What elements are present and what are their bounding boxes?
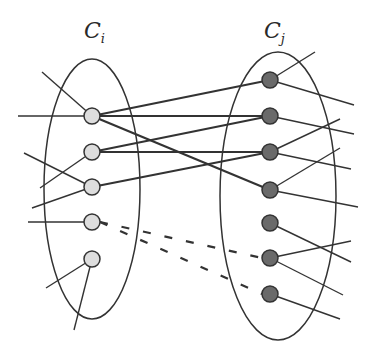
label-cj-base: C <box>264 18 281 43</box>
nodes <box>84 72 278 302</box>
external-edges <box>18 52 358 330</box>
node-ci <box>84 251 100 267</box>
cluster-graph-diagram <box>0 0 375 363</box>
external-edge <box>270 116 354 134</box>
inter-edge-dashed <box>100 222 262 258</box>
node-ci <box>84 179 100 195</box>
inter-edge-solid <box>92 116 270 152</box>
external-edge <box>270 190 358 207</box>
node-cj <box>262 144 278 160</box>
external-edge <box>270 258 343 295</box>
label-ci-base: C <box>84 18 101 43</box>
node-cj <box>262 215 278 231</box>
inter-edge-solid <box>92 152 270 187</box>
external-edge <box>270 294 340 319</box>
cluster-label-ci: Ci <box>84 18 105 46</box>
node-cj <box>262 286 278 302</box>
inter-edge-solid <box>92 80 270 116</box>
node-ci <box>84 108 100 124</box>
node-cj <box>262 108 278 124</box>
node-ci <box>84 214 100 230</box>
node-ci <box>84 144 100 160</box>
label-ci-sub: i <box>101 31 105 46</box>
node-cj <box>262 182 278 198</box>
external-edge <box>32 187 92 208</box>
external-edge <box>270 80 354 105</box>
node-cj <box>262 250 278 266</box>
inter-cluster-edges <box>92 80 270 294</box>
node-cj <box>262 72 278 88</box>
cluster-label-cj: Cj <box>264 18 285 46</box>
external-edge <box>24 153 92 187</box>
label-cj-sub: j <box>281 31 285 46</box>
